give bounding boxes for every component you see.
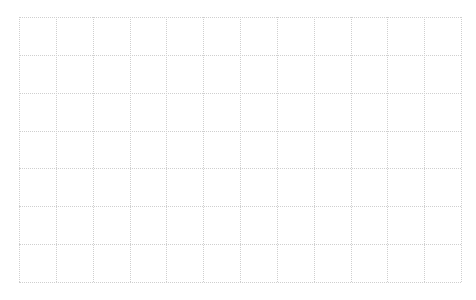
grid-horizontal-line [19,93,461,94]
grid-horizontal-line [19,55,461,56]
grid-vertical-line [240,17,241,282]
grid-horizontal-line [19,17,461,18]
grid-horizontal-line [19,206,461,207]
grid-vertical-line [93,17,94,282]
grid-vertical-line [351,17,352,282]
grid-horizontal-line [19,244,461,245]
grid-vertical-line [387,17,388,282]
grid-vertical-line [19,17,20,282]
grid-horizontal-line [19,168,461,169]
grid-vertical-line [424,17,425,282]
grid-vertical-line [130,17,131,282]
grid-vertical-line [314,17,315,282]
grid-vertical-line [461,17,462,282]
grid-vertical-line [203,17,204,282]
grid-horizontal-line [19,282,461,283]
grid-horizontal-line [19,131,461,132]
grid-vertical-line [56,17,57,282]
grid-vertical-line [166,17,167,282]
dotted-grid [0,0,476,300]
grid-vertical-line [277,17,278,282]
